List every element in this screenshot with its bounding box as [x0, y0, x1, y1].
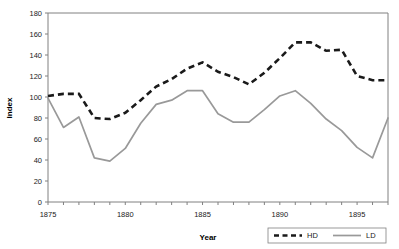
x-axis-title: Year — [200, 233, 217, 242]
data-series-group — [48, 42, 388, 161]
chart-legend[interactable]: HDLD — [268, 228, 386, 243]
y-axis: 020406080100120140160180 — [29, 9, 388, 207]
x-axis: 18751880188518901895 — [40, 202, 388, 219]
y-axis-tick-label: 60 — [34, 135, 42, 144]
x-axis-tick-label: 1890 — [271, 210, 288, 219]
y-axis-tick-label: 100 — [29, 93, 42, 102]
x-axis-tick-label: 1875 — [40, 210, 57, 219]
line-chart: 020406080100120140160180 187518801885189… — [0, 0, 399, 249]
y-axis-title: Index — [5, 97, 14, 118]
y-axis-tick-label: 80 — [34, 114, 42, 123]
y-axis-tick-label: 180 — [29, 9, 42, 18]
y-axis-tick-label: 0 — [38, 198, 42, 207]
y-axis-tick-label: 140 — [29, 51, 42, 60]
x-axis-tick-label: 1895 — [349, 210, 366, 219]
y-axis-tick-label: 20 — [34, 177, 42, 186]
legend-label-hd[interactable]: HD — [307, 231, 318, 240]
legend-label-ld[interactable]: LD — [366, 231, 376, 240]
y-axis-tick-label: 120 — [29, 72, 42, 81]
series-line-hd — [48, 42, 388, 119]
x-axis-tick-label: 1880 — [117, 210, 134, 219]
y-axis-tick-label: 40 — [34, 156, 42, 165]
series-line-ld — [48, 91, 388, 161]
x-axis-tick-label: 1885 — [194, 210, 211, 219]
chart-container: 020406080100120140160180 187518801885189… — [0, 0, 399, 249]
y-axis-tick-label: 160 — [29, 30, 42, 39]
